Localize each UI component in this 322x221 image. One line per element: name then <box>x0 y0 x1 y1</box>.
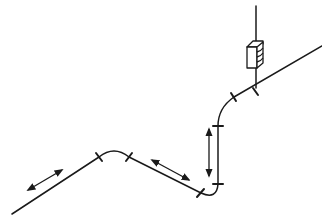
pipe-diagram: Isometric pipe run with bends, joint mar… <box>0 0 322 221</box>
diagram-canvas <box>0 0 322 221</box>
double-arrow-left-diagonal <box>28 170 62 190</box>
joint-marker-2 <box>126 153 132 161</box>
pipe-lower-left-run <box>12 157 99 214</box>
device-assembly <box>247 6 263 88</box>
pipe-riser-top-bend <box>218 97 234 126</box>
main-pipe <box>12 46 322 214</box>
device-box-icon <box>247 41 263 68</box>
joint-marker-1 <box>96 153 102 161</box>
pipe-middle-descending-run <box>129 157 201 193</box>
joint-marker-7 <box>253 88 258 95</box>
pipe-upper-bend <box>99 151 129 157</box>
movement-arrows <box>28 129 209 190</box>
